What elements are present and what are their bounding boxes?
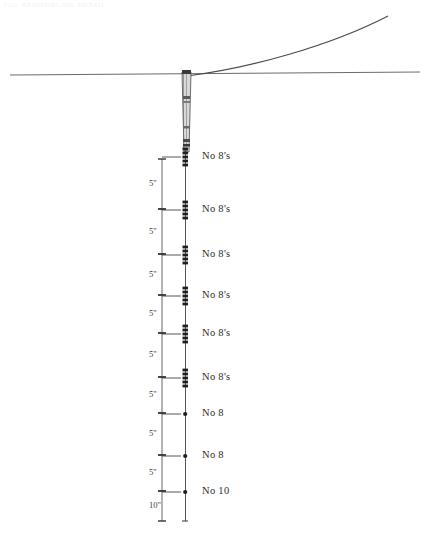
rebar-dash [183, 329, 189, 332]
rebar-dash [183, 213, 189, 216]
rebar-dash [183, 205, 189, 208]
drawing-sheet: FIG. REINFORCING DETAIL No 8'sNo 8'sNo 8… [0, 0, 428, 533]
rebar-dash [183, 377, 189, 380]
dimension-value: 10" [149, 500, 161, 510]
bar-callout-label: No 8 [202, 407, 224, 418]
rebar-dash [183, 295, 189, 298]
rebar-dot [183, 490, 187, 494]
rebar-dash [183, 291, 189, 294]
dimension-value: 5" [149, 467, 157, 477]
rebar-dash [183, 201, 189, 204]
rebar-dash [183, 287, 189, 290]
dimension-value: 5" [149, 349, 157, 359]
rebar-dash [183, 373, 189, 376]
load-curve-line [187, 16, 388, 76]
rebar-dash [183, 369, 189, 372]
ground-line [10, 72, 420, 75]
rebar-dash [183, 246, 189, 249]
rebar-dash [183, 385, 189, 388]
rebar-dash [183, 160, 189, 163]
rebar-dash [183, 333, 189, 336]
rebar-dash [183, 156, 189, 159]
dimension-value: 5" [149, 226, 157, 236]
bar-callout-label: No 8 [202, 449, 224, 460]
rebar-dash [183, 381, 189, 384]
bar-callout-label: No 8's [202, 327, 231, 338]
dimension-layer [158, 157, 181, 521]
rebar-dash [183, 148, 189, 151]
rebar-dash [183, 254, 189, 257]
dimension-value: 5" [149, 428, 157, 438]
rebar-dash [183, 258, 189, 261]
rebar-dash [183, 337, 189, 340]
rebar-dot [183, 412, 187, 416]
bar-callout-label: No 8's [202, 289, 231, 300]
rebar-dash [183, 164, 189, 167]
rebar-dash [183, 303, 189, 306]
rebar-dash [183, 250, 189, 253]
rebar-dash [183, 262, 189, 265]
rebar-dash [183, 341, 189, 344]
bar-callout-label: No 8's [202, 150, 231, 161]
rebar-dot [183, 454, 187, 458]
pile-shaft [182, 70, 191, 152]
dimension-value: 5" [149, 269, 157, 279]
dimension-value: 5" [149, 389, 157, 399]
rebar-dash [183, 325, 189, 328]
rebar-dash [183, 152, 189, 155]
dimension-value: 5" [149, 308, 157, 318]
rebar-dash [183, 299, 189, 302]
bar-callout-label: No 10 [202, 485, 229, 496]
bar-callout-label: No 8's [202, 371, 231, 382]
rebar-dash [183, 209, 189, 212]
bar-callout-label: No 8's [202, 203, 231, 214]
dimension-value: 5" [149, 178, 157, 188]
bar-callout-label: No 8's [202, 248, 231, 259]
rebar-dash [183, 217, 189, 220]
